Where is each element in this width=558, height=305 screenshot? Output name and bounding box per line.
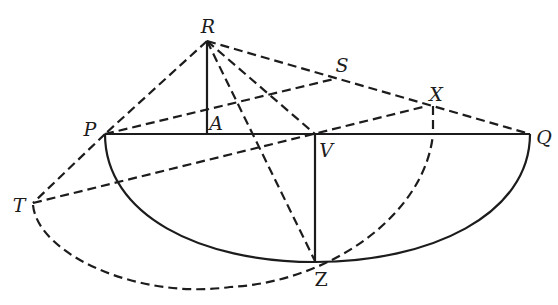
semi-ellipse-PZQ [105,134,530,262]
point-label-A: A [209,114,223,133]
point-label-S: S [335,56,348,75]
point-label-V: V [319,141,333,160]
point-label-P: P [84,120,97,139]
segment-RP [105,41,207,134]
segment-RZ [207,41,315,261]
point-label-Q: Q [536,128,552,147]
point-label-X: X [429,85,443,104]
point-label-R: R [201,17,215,36]
point-label-Z: Z [314,270,327,289]
dashed-arc-TZX [33,134,433,289]
segment-RQ [207,41,530,134]
segment-PT [33,134,105,203]
point-label-T: T [13,196,26,215]
geometry-diagram: R S X P A V Q T Z [0,0,558,305]
diagram-canvas [0,0,558,305]
